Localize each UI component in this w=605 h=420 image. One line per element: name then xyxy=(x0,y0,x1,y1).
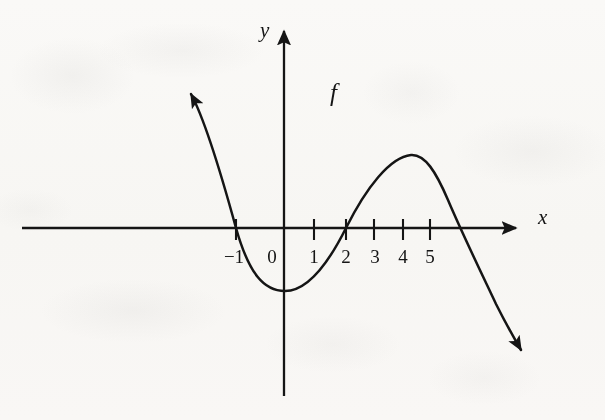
function-graph-figure: y x f −1 0 1 2 3 4 5 xyxy=(0,0,605,420)
x-tick-label-0: 0 xyxy=(267,246,277,268)
curve-label-f: f xyxy=(330,79,337,107)
x-tick-label-3: 3 xyxy=(370,246,380,268)
x-tick-label-4: 4 xyxy=(398,246,408,268)
x-axis-label: x xyxy=(538,205,547,230)
curve-path-f xyxy=(191,94,521,350)
x-tick-label-2: 2 xyxy=(341,246,351,268)
plot-canvas xyxy=(0,0,605,420)
x-tick-label-1: 1 xyxy=(309,246,319,268)
y-axis-label: y xyxy=(260,18,269,43)
x-tick-label-neg1: −1 xyxy=(224,246,244,268)
x-axis-ticks xyxy=(236,219,430,240)
x-tick-label-5: 5 xyxy=(425,246,435,268)
function-curve xyxy=(191,94,521,350)
